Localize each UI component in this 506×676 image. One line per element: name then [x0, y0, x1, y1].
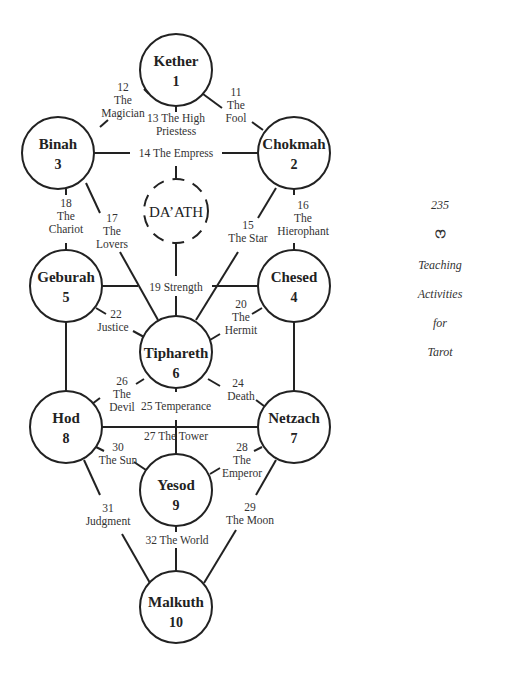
path-28-label: 28TheEmperor [222, 441, 262, 480]
tree-of-life-diagram: DA’ATH Kether 1 Chokmah 2 Binah 3 Chesed… [0, 0, 506, 676]
running-head-line-3: for [400, 316, 480, 331]
path-26-label: 26TheDevil [109, 375, 135, 413]
sephira-number: 10 [169, 615, 183, 630]
sephira-number: 4 [291, 290, 298, 305]
sephira-hod: Hod [52, 410, 80, 426]
sephira-malkuth: Malkuth [148, 594, 205, 610]
sephira-chokmah: Chokmah [262, 136, 326, 152]
path-11-label: 11TheFool [225, 86, 246, 124]
path-16-label: 16TheHierophant [277, 199, 330, 238]
sephira-number: 9 [173, 498, 180, 513]
sephira-number: 8 [63, 431, 70, 446]
fleuron-ornament-icon: ෆ [400, 224, 480, 242]
path-19-label: 19 Strength [149, 281, 203, 294]
path-17-label: 17TheLovers [96, 212, 128, 250]
path-27-label: 27 The Tower [144, 430, 208, 442]
path-31-label: 31Judgment [86, 502, 132, 528]
path-24-label: 24Death [227, 377, 255, 402]
path-13-label: 13 The HighPriestess [147, 112, 205, 137]
sephira-number: 3 [55, 157, 62, 172]
path-20-label: 20TheHermit [225, 298, 258, 336]
path-25-label: 25 Temperance [141, 400, 211, 413]
path-29-label: 29The Moon [226, 501, 274, 526]
running-head-line-2: Activities [400, 287, 480, 302]
path-14-label: 14 The Empress [139, 147, 214, 160]
sephira-number: 2 [291, 157, 298, 172]
sephira-netzach: Netzach [268, 410, 320, 426]
path-18-label: 18TheChariot [49, 197, 84, 235]
sephira-chesed: Chesed [271, 269, 318, 285]
path-15-label: 15The Star [228, 219, 267, 244]
path-32-label: 32 The World [145, 534, 208, 546]
sephira-number: 1 [173, 74, 180, 89]
daath-label: DA’ATH [149, 204, 203, 220]
path-12-label: 12TheMagician [101, 81, 145, 120]
sephira-binah: Binah [39, 136, 78, 152]
path-30-label: 30The Sun [99, 441, 138, 466]
page-number: 235 [400, 198, 480, 213]
running-head-line-1: Teaching [400, 258, 480, 273]
sephira-number: 6 [173, 366, 180, 381]
sephira-yesod: Yesod [157, 477, 195, 493]
running-head-line-4: Tarot [400, 345, 480, 360]
sephira-kether: Kether [154, 53, 199, 69]
sephira-geburah: Geburah [37, 269, 95, 285]
sephira-tiphareth: Tiphareth [144, 345, 209, 361]
sephira-number: 7 [291, 431, 298, 446]
sephira-number: 5 [63, 290, 70, 305]
